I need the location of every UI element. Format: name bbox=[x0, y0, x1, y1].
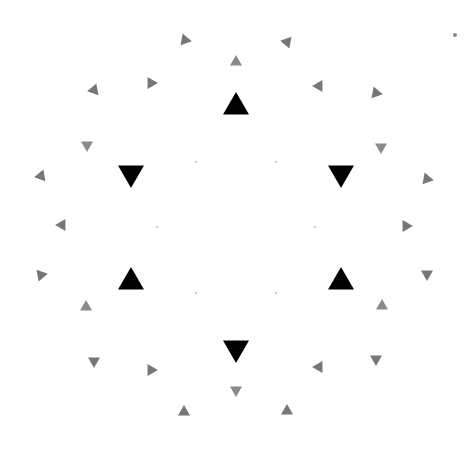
dot bbox=[314, 226, 316, 228]
triangle-pattern-figure bbox=[0, 0, 476, 452]
dot bbox=[195, 161, 197, 163]
dot bbox=[453, 33, 457, 37]
dot bbox=[275, 161, 277, 163]
dot bbox=[275, 292, 277, 294]
dot bbox=[156, 226, 158, 228]
dot bbox=[195, 292, 197, 294]
